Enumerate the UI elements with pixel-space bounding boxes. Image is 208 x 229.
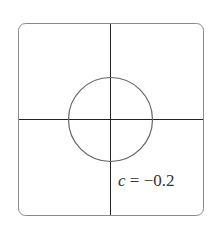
c-value-label: c = −0.2 [118, 171, 174, 191]
equals-sign: = [126, 171, 144, 190]
diagram-canvas [0, 0, 208, 229]
c-variable: c [118, 171, 126, 190]
c-value: −0.2 [144, 171, 175, 190]
